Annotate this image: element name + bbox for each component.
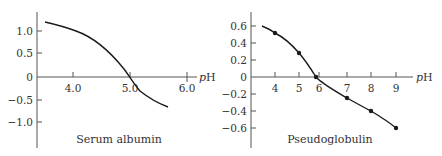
chart-caption: Pseudoglobulin [287,133,372,146]
x-tick-label: 6 [316,82,323,94]
data-point [273,31,277,35]
serum-albumin-curve [45,22,168,107]
y-tick-label: 0.4 [230,37,247,49]
y-tick-label: 0.6 [230,20,247,32]
y-tick-label: −1.0 [8,116,34,128]
chart-caption: Serum albumin [76,133,162,146]
y-tick-label: −0.4 [222,105,248,117]
data-point [369,109,373,113]
y-tick-label: −0.6 [222,122,248,134]
x-tick-label: 8 [368,82,375,94]
chart-pseudoglobulin: 0.6 0.4 0.2 0 −0.2 −0.4 −0.6 4 5 6 7 8 9… [222,12,433,148]
data-point [297,51,301,55]
x-axis-label: pH [199,71,216,84]
data-point [394,126,398,130]
x-tick-label: 5 [296,82,303,94]
x-tick-label: 4 [272,82,279,94]
figure: 1.0 0.5 0 −0.5 −1.0 4.0 5.0 6.0 pH Serum… [0,0,442,156]
y-tick-label: −0.5 [8,94,34,106]
x-tick-label: 5.0 [122,82,139,94]
y-tick-label: 1.0 [16,25,33,37]
y-tick-label: −0.2 [222,88,248,100]
y-tick-label: 0.2 [230,54,247,66]
x-tick-label: 7 [344,82,351,94]
x-tick-label: 9 [393,82,400,94]
y-tick-label: 0 [26,71,33,83]
data-point [314,75,318,79]
x-tick-label: 4.0 [65,82,82,94]
data-point [345,96,349,100]
chart-serum-albumin: 1.0 0.5 0 −0.5 −1.0 4.0 5.0 6.0 pH Serum… [8,12,216,148]
x-axis-label: pH [416,71,433,84]
x-tick-label: 6.0 [179,82,196,94]
y-tick-label: 0.5 [16,47,33,59]
y-tick-label: 0 [240,71,247,83]
